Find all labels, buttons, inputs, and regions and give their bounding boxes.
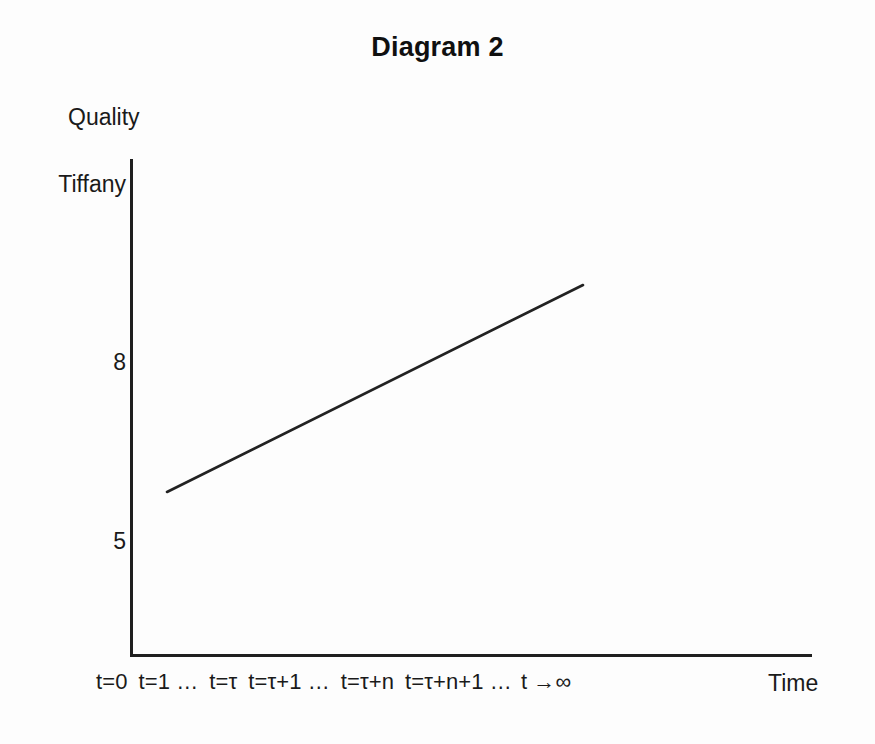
x-tick-label-tinfinity: t →∞ xyxy=(521,669,571,695)
series-line-quality xyxy=(167,285,583,492)
y-tick-label-tiffany: Tiffany xyxy=(58,173,126,196)
x-tick-label-ttau: t=τ xyxy=(209,669,237,695)
diagram-canvas: Diagram 2 Quality Time Tiffany 8 5 t=0t=… xyxy=(0,0,875,744)
x-tick-label-ttau1: t=τ+1 … xyxy=(248,669,330,695)
plot-area xyxy=(0,0,875,744)
y-tick-label-8: 8 xyxy=(113,351,126,374)
x-tick-label-t0: t=0 xyxy=(96,669,128,695)
x-tick-label-ttaun1: t=τ+n+1 … xyxy=(405,669,512,695)
x-tick-label-row: t=0t=1 …t=τt=τ+1 …t=τ+nt=τ+n+1 …t →∞ xyxy=(96,669,571,695)
x-tick-label-t1: t=1 … xyxy=(139,669,199,695)
y-tick-label-5: 5 xyxy=(113,530,126,553)
x-tick-label-ttaun: t=τ+n xyxy=(341,669,394,695)
